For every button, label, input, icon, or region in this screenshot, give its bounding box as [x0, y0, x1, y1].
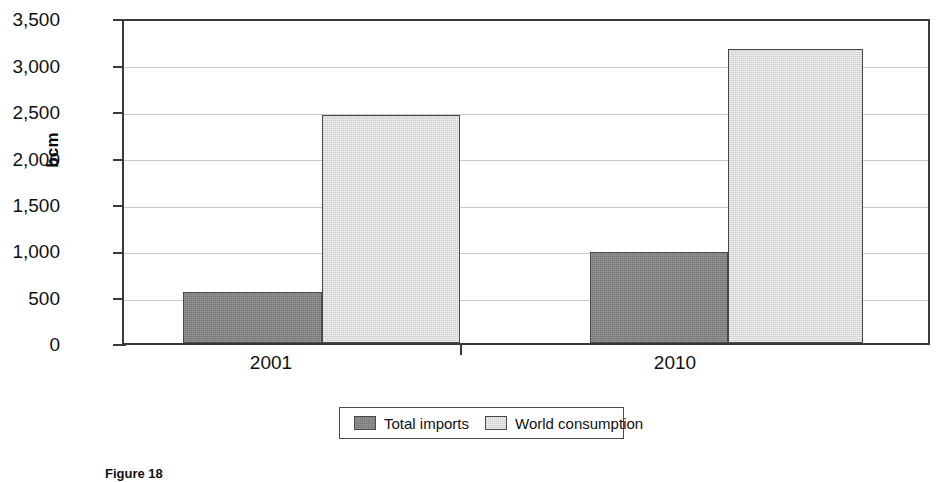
y-tick-label-2000: 2,000	[0, 150, 60, 169]
x-tick-label-2010: 2010	[585, 352, 765, 374]
plot-area	[122, 19, 930, 345]
legend: Total imports World consumption	[339, 407, 624, 439]
x-axis-group-separator	[460, 345, 462, 355]
legend-swatch-world-consumption	[485, 416, 507, 430]
legend-swatch-total-imports	[354, 416, 376, 430]
legend-item-total-imports: Total imports	[354, 415, 469, 432]
legend-label-world-consumption: World consumption	[515, 415, 643, 432]
y-tick-label-1000: 1,000	[0, 242, 60, 261]
bar-2001-world-consumption	[322, 115, 460, 343]
legend-label-total-imports: Total imports	[384, 415, 469, 432]
y-tick-label-2500: 2,500	[0, 103, 60, 122]
y-tick-label-3500: 3,500	[0, 10, 60, 29]
x-tick-label-2001: 2001	[181, 352, 361, 374]
legend-item-world-consumption: World consumption	[485, 415, 643, 432]
bar-2010-world-consumption	[728, 49, 863, 343]
y-tick-label-3000: 3,000	[0, 57, 60, 76]
y-tick-label-500: 500	[0, 289, 60, 308]
bar-2001-total-imports	[183, 292, 322, 343]
figure-caption: Figure 18	[105, 466, 163, 481]
y-tick-label-1500: 1,500	[0, 196, 60, 215]
bar-chart: bcm 3,500 3,000 2,500 2,000 1,500 1,000 …	[0, 0, 947, 482]
bar-2010-total-imports	[590, 252, 728, 343]
y-tick-label-0: 0	[0, 335, 60, 354]
